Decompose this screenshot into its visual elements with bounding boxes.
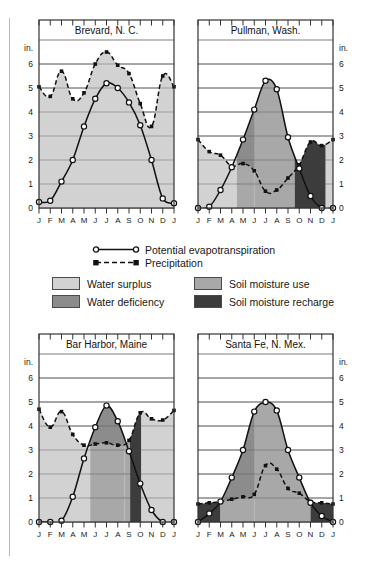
y-tick-santa-fe-4: 4 [339, 421, 344, 431]
y-axis-unit-bar-harbor: in. [24, 357, 33, 367]
x-tick-brevard-4: M [81, 216, 88, 225]
x-tick-bar-harbor-9: O [137, 530, 143, 539]
y-tick-pullman-1: 1 [339, 179, 344, 189]
x-tick-brevard-7: A [115, 216, 121, 225]
x-tick-santa-fe-9: O [296, 530, 302, 539]
chart-panel-pullman: Pullman, Wash.in.6543210JFMAMJJASONDJ [190, 16, 370, 244]
x-tick-brevard-3: A [70, 216, 76, 225]
legend-label-use: Soil moisture use [229, 278, 310, 290]
y-tick-santa-fe-3: 3 [339, 445, 344, 455]
x-tick-bar-harbor-0: J [37, 530, 41, 539]
y-tick-bar-harbor-0: 0 [28, 517, 33, 527]
x-tick-santa-fe-1: F [207, 530, 212, 539]
y-tick-bar-harbor-6: 6 [28, 373, 33, 383]
y-tick-pullman-6: 6 [339, 59, 344, 69]
x-tick-brevard-5: J [93, 216, 97, 225]
x-tick-santa-fe-11: D [319, 530, 325, 539]
legend-item-deficiency: Water deficiency [52, 295, 194, 308]
chart-panel-santa-fe: Santa Fe, N. Mex.in.6543210JFMAMJJASONDJ [190, 330, 370, 558]
legend-label-pe: Potential evapotranspiration [145, 244, 275, 256]
x-tick-brevard-8: S [126, 216, 131, 225]
x-tick-santa-fe-7: A [274, 530, 280, 539]
chart-svg-santa-fe: Santa Fe, N. Mex.in.6543210JFMAMJJASONDJ [190, 330, 370, 558]
chart-panel-brevard: Brevard, N. C.in.6543210JFMAMJJASONDJ [12, 16, 187, 244]
y-tick-pullman-0: 0 [339, 203, 344, 213]
y-tick-bar-harbor-2: 2 [28, 469, 33, 479]
x-tick-santa-fe-0: J [196, 530, 200, 539]
chart-title-brevard: Brevard, N. C. [75, 25, 138, 36]
pe-line-symbol-icon [92, 244, 140, 255]
x-tick-pullman-6: J [264, 216, 268, 225]
y-tick-bar-harbor-4: 4 [28, 421, 33, 431]
legend-label-surplus: Water surplus [87, 278, 151, 290]
y-tick-brevard-6: 6 [28, 59, 33, 69]
x-tick-santa-fe-5: J [252, 530, 256, 539]
x-tick-pullman-9: O [296, 216, 302, 225]
chart-panel-bar-harbor: Bar Harbor, Mainein.6543210JFMAMJJASONDJ [12, 330, 187, 558]
x-tick-bar-harbor-11: D [160, 530, 166, 539]
chart-svg-pullman: Pullman, Wash.in.6543210JFMAMJJASONDJ [190, 16, 370, 244]
x-tick-brevard-10: N [149, 216, 155, 225]
legend-item-surplus: Water surplus [52, 277, 194, 290]
x-tick-bar-harbor-12: J [172, 530, 176, 539]
y-tick-santa-fe-5: 5 [339, 397, 344, 407]
y-tick-pullman-4: 4 [339, 107, 344, 117]
x-tick-santa-fe-8: S [285, 530, 290, 539]
x-tick-bar-harbor-4: M [81, 530, 88, 539]
legend-item-use: Soil moisture use [194, 277, 352, 290]
x-tick-bar-harbor-8: S [126, 530, 131, 539]
y-tick-santa-fe-0: 0 [339, 517, 344, 527]
chart-title-santa-fe: Santa Fe, N. Mex. [225, 339, 306, 350]
soil-moisture-recharge-swatch-icon [194, 295, 222, 308]
x-tick-brevard-6: J [105, 216, 109, 225]
y-tick-santa-fe-6: 6 [339, 373, 344, 383]
x-tick-bar-harbor-2: M [58, 530, 65, 539]
legend-item-precip: Precipitation [92, 256, 373, 269]
x-tick-santa-fe-12: J [331, 530, 335, 539]
y-tick-brevard-2: 2 [28, 155, 33, 165]
soil-moisture-use-swatch-icon [194, 277, 222, 290]
x-tick-bar-harbor-3: A [70, 530, 76, 539]
chart-title-bar-harbor: Bar Harbor, Maine [66, 339, 148, 350]
x-tick-pullman-11: D [319, 216, 325, 225]
x-tick-pullman-4: M [240, 216, 247, 225]
legend-item-recharge: Soil moisture recharge [194, 295, 352, 308]
chart-title-pullman: Pullman, Wash. [231, 25, 301, 36]
y-tick-pullman-3: 3 [339, 131, 344, 141]
y-tick-bar-harbor-1: 1 [28, 493, 33, 503]
y-tick-pullman-5: 5 [339, 83, 344, 93]
deficiency-swatch-icon [52, 295, 80, 308]
legend-label-deficiency: Water deficiency [87, 296, 164, 308]
y-axis-unit-pullman: in. [339, 43, 348, 53]
y-tick-brevard-0: 0 [28, 203, 33, 213]
x-tick-pullman-10: N [308, 216, 314, 225]
x-tick-brevard-0: J [37, 216, 41, 225]
x-tick-pullman-12: J [331, 216, 335, 225]
legend-label-precip: Precipitation [145, 257, 203, 269]
y-tick-brevard-1: 1 [28, 179, 33, 189]
y-axis-unit-santa-fe: in. [339, 357, 348, 367]
legend-item-pe: Potential evapotranspiration [92, 243, 373, 256]
water-budget-figure: Brevard, N. C.in.6543210JFMAMJJASONDJ Pu… [0, 0, 373, 564]
x-tick-pullman-5: J [252, 216, 256, 225]
x-tick-brevard-1: F [48, 216, 53, 225]
surplus-swatch-icon [52, 277, 80, 290]
precip-line-symbol-icon [92, 257, 140, 268]
x-tick-pullman-8: S [285, 216, 290, 225]
x-tick-bar-harbor-5: J [93, 530, 97, 539]
x-tick-pullman-3: A [229, 216, 235, 225]
x-tick-santa-fe-2: M [217, 530, 224, 539]
x-tick-pullman-2: M [217, 216, 224, 225]
y-tick-brevard-3: 3 [28, 131, 33, 141]
x-tick-brevard-12: J [172, 216, 176, 225]
y-axis-unit-brevard: in. [24, 43, 33, 53]
y-tick-bar-harbor-5: 5 [28, 397, 33, 407]
x-tick-bar-harbor-7: A [115, 530, 121, 539]
y-tick-santa-fe-1: 1 [339, 493, 344, 503]
legend-series: Potential evapotranspiration Precipitati… [0, 243, 373, 269]
y-tick-bar-harbor-3: 3 [28, 445, 33, 455]
chart-svg-bar-harbor: Bar Harbor, Mainein.6543210JFMAMJJASONDJ [12, 330, 187, 558]
x-tick-bar-harbor-10: N [149, 530, 155, 539]
y-tick-pullman-2: 2 [339, 155, 344, 165]
x-tick-bar-harbor-1: F [48, 530, 53, 539]
